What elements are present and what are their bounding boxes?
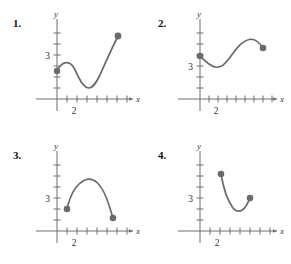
x-tick-label-2: 2 (215, 238, 220, 248)
endpoint-dot-left (54, 68, 60, 74)
graph-figure-2: x y 2 3 (145, 0, 291, 132)
y-tick-label-3: 3 (188, 194, 193, 204)
figure-cell-2: 2. (145, 0, 291, 132)
x-axis-arrow (129, 229, 133, 233)
x-axis-arrow (129, 97, 133, 101)
y-tick-label-3: 3 (45, 194, 50, 204)
x-tick-label-2: 2 (214, 106, 219, 116)
y-axis-label: y (53, 9, 58, 19)
figure-cell-4: 4. (145, 132, 291, 264)
endpoint-dot-right (110, 215, 117, 222)
graph-figure-3: x y 2 3 (0, 132, 145, 264)
y-tick-label-3: 3 (188, 62, 193, 72)
endpoint-dot-top (218, 171, 225, 178)
y-tick-label-3: 3 (45, 51, 50, 61)
x-axis-label: x (135, 226, 140, 236)
x-axis-label: x (279, 226, 284, 236)
x-axis-arrow (273, 97, 277, 101)
graph-figure-1: x y 2 3 (0, 0, 145, 132)
x-axis-label: x (279, 94, 284, 104)
figure-cell-3: 3. (0, 132, 145, 264)
curve-path-2 (200, 39, 263, 67)
x-axis-label: x (135, 94, 140, 104)
x-tick-label-2: 2 (72, 238, 77, 248)
endpoint-dot-right (247, 195, 254, 202)
endpoint-dot-left (197, 53, 204, 60)
figure-cell-1: 1. (0, 0, 145, 132)
axes-group-3 (36, 151, 133, 243)
x-axis-arrow (273, 229, 277, 233)
y-axis-label: y (196, 141, 201, 151)
x-tick-label-2: 2 (72, 106, 77, 116)
endpoint-dot-right (115, 33, 122, 40)
y-axis-label: y (196, 9, 201, 19)
curve-path-4 (221, 174, 250, 211)
y-axis-label: y (53, 141, 58, 151)
curve-path-3 (67, 179, 113, 218)
endpoint-dot-right (260, 45, 267, 52)
figure-grid: 1. (0, 0, 291, 264)
endpoint-dot-left (64, 206, 71, 213)
graph-figure-4: x y 2 3 (145, 132, 291, 264)
curve-path-1 (57, 36, 118, 88)
